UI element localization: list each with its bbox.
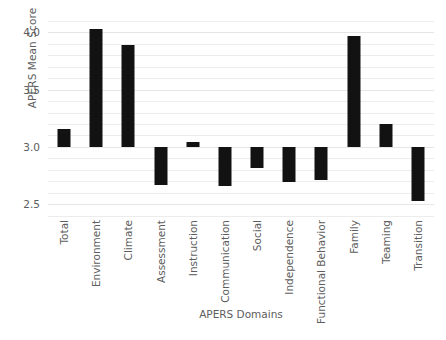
bar-slot	[273, 14, 305, 218]
bar[interactable]	[122, 45, 135, 147]
x-axis-tick-label-text: Social	[251, 220, 263, 251]
y-axis-tick-label: 3.0	[23, 141, 40, 153]
x-axis-tick-label: Teaming	[370, 220, 402, 308]
x-axis-tick-label: Transition	[402, 220, 434, 308]
bar-slot	[145, 14, 177, 218]
x-axis-tick-label: Family	[338, 220, 370, 308]
x-axis-tick-label-text: Total	[58, 220, 70, 245]
x-axis-tick-label-text: Climate	[122, 220, 134, 260]
bar[interactable]	[283, 147, 296, 183]
bar-slot	[241, 14, 273, 218]
x-axis-tick-label-text: Assessment	[155, 220, 167, 283]
bar-slot	[112, 14, 144, 218]
bar-slot	[402, 14, 434, 218]
y-axis-tick-labels: 2.53.03.54.0	[0, 0, 46, 340]
y-axis-tick-label: 2.5	[23, 198, 40, 210]
x-axis-title: APERS Domains	[48, 308, 434, 320]
x-axis-tick-label: Environment	[80, 220, 112, 308]
bar-series	[48, 14, 434, 218]
x-axis-tick-label: Climate	[112, 220, 144, 308]
x-axis-tick-label-text: Independence	[283, 220, 295, 295]
y-axis-tick-label: 3.5	[23, 84, 40, 96]
x-axis-tick-label-text: Instruction	[187, 220, 199, 276]
bar[interactable]	[218, 147, 231, 186]
x-axis-tick-labels: TotalEnvironmentClimateAssessmentInstruc…	[48, 220, 434, 310]
plot-area	[48, 14, 434, 218]
bar-slot	[305, 14, 337, 218]
bar-slot	[177, 14, 209, 218]
x-axis-tick-label: Social	[241, 220, 273, 308]
bar[interactable]	[379, 124, 392, 147]
bar[interactable]	[315, 147, 328, 180]
bar[interactable]	[90, 29, 103, 147]
bar[interactable]	[186, 142, 199, 147]
y-axis-tick-label: 4.0	[23, 26, 40, 38]
bar-slot	[370, 14, 402, 218]
x-axis-tick-label: Instruction	[177, 220, 209, 308]
x-axis-tick-label: Independence	[273, 220, 305, 308]
x-axis-tick-label-text: Transition	[412, 220, 424, 271]
bar-slot	[48, 14, 80, 218]
bar-slot	[209, 14, 241, 218]
x-axis-tick-label-text: Communication	[219, 220, 231, 303]
bar-chart: APERS Mean Score 2.53.03.54.0 TotalEnvir…	[0, 0, 446, 340]
bar[interactable]	[411, 147, 424, 201]
x-axis-tick-label: Assessment	[145, 220, 177, 308]
bar[interactable]	[154, 147, 167, 185]
bar[interactable]	[251, 147, 264, 168]
x-axis-tick-label: Total	[48, 220, 80, 308]
bar[interactable]	[58, 129, 71, 147]
x-axis-tick-label-text: Teaming	[380, 220, 392, 264]
bar-slot	[80, 14, 112, 218]
bar-slot	[338, 14, 370, 218]
x-axis-tick-label-text: Family	[348, 220, 360, 254]
bar[interactable]	[347, 36, 360, 147]
x-axis-tick-label: Communication	[209, 220, 241, 308]
x-axis-tick-label: Functional Behavior	[305, 220, 337, 308]
x-axis-tick-label-text: Environment	[90, 220, 102, 287]
